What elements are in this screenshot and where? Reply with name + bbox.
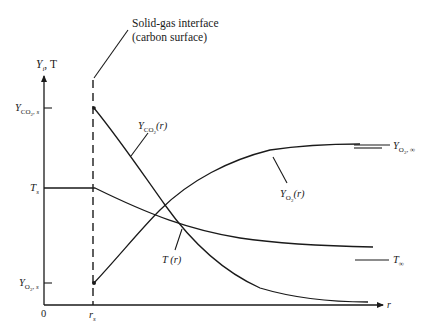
diagram-canvas: Solid-gas interface (carbon surface) Yi,… [0, 0, 431, 331]
x-axis-label: r [387, 299, 391, 310]
yco2s-label: YCO2, s [15, 102, 40, 117]
annotation-leader [94, 30, 128, 78]
rs-label: rs [89, 309, 96, 323]
yco2-curve-label: YCO2(r) [138, 120, 168, 135]
yco2-label-leader [131, 133, 148, 156]
ts-label: Ts [30, 181, 39, 196]
yco2-curve [94, 108, 368, 302]
annotation-line1: Solid-gas interface [132, 17, 219, 30]
tinf-label: T∞ [393, 254, 404, 268]
annotation-line2: (carbon surface) [132, 31, 207, 44]
origin-label: 0 [41, 308, 46, 319]
y-axis-label: Yi, T [36, 58, 57, 73]
t-label-leader [175, 229, 182, 250]
t-curve-label: T (r) [162, 254, 182, 266]
yo2-curve [94, 144, 360, 283]
yo2inf-label: YO2, ∞ [393, 140, 415, 155]
yo2s-label: YO2, s [19, 277, 39, 292]
yo2-start-point [92, 281, 96, 285]
yco2-start-point [92, 106, 96, 110]
yo2-label-leader [273, 157, 287, 183]
yo2-curve-label: YO2(r) [280, 188, 305, 203]
